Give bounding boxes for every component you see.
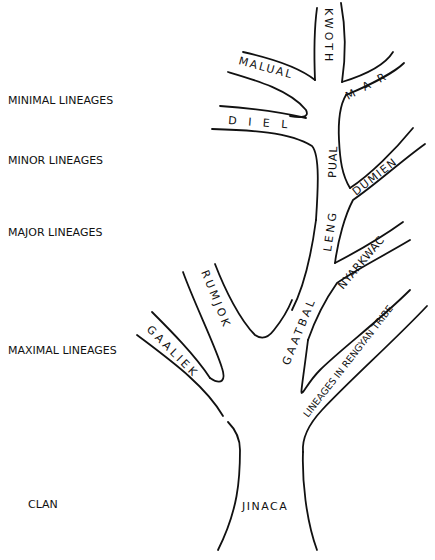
pual-right-edge (339, 95, 350, 188)
gaaliek-label: GAALIEK (144, 323, 202, 381)
nyarkwac-label: NYARKWAC (335, 233, 387, 291)
kwoth-left-edge (314, 8, 317, 80)
dumien-label: DUMIEN (350, 155, 400, 198)
pual-label: PUAL (326, 145, 340, 178)
trunk-right-edge (303, 452, 317, 550)
mar-label: M A R (343, 69, 390, 102)
lineage-tree-diagram: MINIMAL LINEAGES MINOR LINEAGES MAJOR LI… (0, 0, 435, 560)
diel-label: D I E L (228, 114, 292, 131)
kwoth-label: KWOTH (322, 8, 335, 64)
leng-left-edge (292, 220, 316, 310)
trunk-left-edge (218, 422, 240, 550)
tree-graphic: KWOTH MALUAL M A R D I E L PUAL DUMIEN L… (0, 0, 435, 560)
gaaliek-lower-edge (137, 335, 223, 416)
gaatbal-label: GAATBAL (280, 296, 319, 368)
diel-lower-edge (212, 129, 318, 220)
rengyan-lower-edge (303, 306, 427, 452)
jinaca-label: JINACA (241, 500, 288, 513)
kwoth-right-edge (341, 3, 345, 82)
